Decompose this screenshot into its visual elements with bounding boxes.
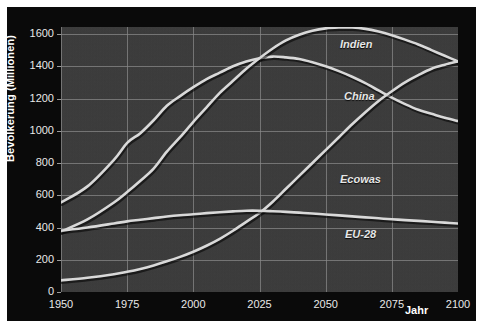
- series-line-shadow: [62, 58, 458, 204]
- x-axis-tick-label: 2075: [380, 298, 404, 310]
- y-axis-tick-label: 400: [36, 222, 54, 233]
- x-axis-tick-label: 2050: [313, 298, 337, 310]
- x-axis-tick-label: 2025: [247, 298, 271, 310]
- y-axis-tick-label: 1200: [30, 93, 54, 104]
- series-lines: [61, 27, 458, 292]
- x-axis-tick-label: 2100: [446, 298, 470, 310]
- y-axis-tick-label: 200: [36, 254, 54, 265]
- x-axis-tick-label: 1975: [115, 298, 139, 310]
- y-axis-tick-label: 1400: [30, 60, 54, 71]
- y-axis-tick-label: 600: [36, 189, 54, 200]
- x-axis-tick-label: 2000: [181, 298, 205, 310]
- series-label-indien: Indien: [340, 38, 372, 50]
- chart-canvas: Bevölkerung (Millionen) Jahr 02004006008…: [7, 7, 476, 321]
- series-line-china: [61, 57, 458, 203]
- y-axis-tick-label: 0: [48, 286, 54, 297]
- y-axis-tick-mark: [57, 292, 61, 293]
- series-label-ecowas: Ecowas: [340, 173, 381, 185]
- y-axis-tick-label: 1600: [30, 28, 54, 39]
- series-line-ecowas: [61, 61, 458, 280]
- y-axis-title: Bevölkerung (Millionen): [7, 35, 16, 162]
- series-label-china: China: [344, 90, 375, 102]
- x-axis-title: Jahr: [405, 304, 428, 316]
- chart-figure: Bevölkerung (Millionen) Jahr 02004006008…: [0, 0, 483, 336]
- series-line-shadow: [62, 63, 458, 282]
- plot-area: IndienChinaEcowasEU-28: [61, 27, 458, 292]
- y-axis-tick-label: 1000: [30, 125, 54, 136]
- series-label-eu-28: EU-28: [345, 228, 376, 240]
- y-axis-tick-label: 800: [36, 157, 54, 168]
- x-axis-tick-label: 1950: [49, 298, 73, 310]
